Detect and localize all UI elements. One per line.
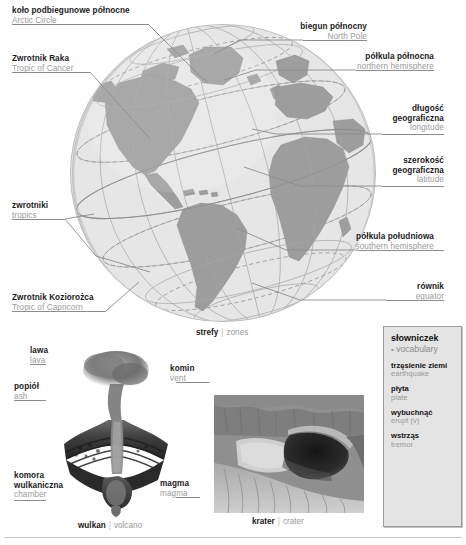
label-northern-hemisphere-en: northern hemisphere [344,62,434,72]
label-tropic-of-capricorn-pl: Zwrotnik Koziorożca [12,293,94,303]
label-magma: magma magma [160,479,189,498]
volcano-caption-separator: | [106,521,114,530]
volcano-caption: wulkan|volcano [78,521,142,530]
globe-sphere [70,24,376,322]
volcano-cutaway-svg [46,348,176,518]
label-southern-hemisphere-en: southern hemisphere [344,242,434,252]
page-footer-rule [4,537,462,538]
volcano-photo [46,348,176,518]
label-equator: równik equator [364,282,444,301]
vocabulary-entry-en: tremor [391,441,461,450]
label-tropics-en: tropics [12,211,48,221]
crater-caption-separator: | [275,517,283,526]
label-latitude: szerokość geograficzna latitude [364,156,444,185]
label-tropic-of-capricorn-en: Tropic of Capricorn [12,303,94,313]
label-ash-pl: popiół [14,382,39,392]
crater-caption-en: crater [283,517,304,526]
label-southern-hemisphere: półkula południowa southern hemisphere [344,232,434,251]
label-tropic-of-capricorn: Zwrotnik Koziorożca Tropic of Capricorn [12,293,94,312]
label-lava-en: lava [30,356,48,366]
label-chamber-pl-line1: komora [14,471,63,481]
label-lava-pl: lawa [30,346,48,356]
vocabulary-entry-en: plate [391,394,461,403]
label-equator-en: equator [364,292,444,302]
label-northern-hemisphere-pl: półkula północna [344,52,434,62]
label-lava: lawa lava [30,346,48,365]
label-chamber-en: chamber [14,490,63,500]
bullet-icon: • [391,345,394,354]
vocabulary-title-pl: słowniczek [391,334,461,344]
globe-caption: strefy|zones [196,328,248,337]
label-tropic-of-cancer-pl: Zwrotnik Raka [12,54,74,64]
label-north-pole-en: North Pole [287,32,367,42]
label-longitude-en: longitude [364,123,444,133]
label-tropics: zwrotniki tropics [12,201,48,220]
globe-illustration [70,24,376,322]
label-vent: komin vent [170,364,195,383]
label-longitude: długość geograficzna longitude [364,104,444,133]
label-north-pole-pl: biegun północny [287,22,367,32]
label-tropics-pl: zwrotniki [12,201,48,211]
label-ash: popiół ash [14,382,39,401]
label-ash-en: ash [14,392,39,402]
label-magma-en: magma [160,489,189,499]
vocabulary-entry-en: erupt (v) [391,417,461,426]
vocabulary-entry: wybuchnąć erupt (v) [391,409,461,426]
vocabulary-title-en: vocabulary [396,344,438,354]
label-longitude-pl-line1: długość [364,104,444,114]
label-latitude-en: latitude [364,175,444,185]
volcano-caption-pl: wulkan [78,521,106,530]
label-northern-hemisphere: półkula północna northern hemisphere [344,52,434,71]
vocabulary-entry: trzęsienie ziemi earthquake [391,362,461,379]
label-arctic-circle-en: Arctic Circle [12,16,130,26]
label-arctic-circle-pl: koło podbiegunowe północne [12,6,130,16]
label-tropic-of-cancer-en: Tropic of Cancer [12,64,74,74]
vocabulary-entry: wstrząs tremor [391,432,461,449]
label-longitude-pl-line2: geograficzna [364,114,444,124]
label-vent-pl: komin [170,364,195,374]
crater-caption-pl: krater [252,517,275,526]
crater-aerial-svg [214,395,364,513]
label-rule-longitude [382,134,444,135]
vocabulary-box: słowniczek • vocabulary trzęsienie ziemi… [383,326,462,527]
label-magma-pl: magma [160,479,189,489]
label-north-pole: biegun północny North Pole [287,22,367,41]
page-root: koło podbiegunowe północne Arctic Circle… [0,0,466,545]
label-equator-pl: równik [364,282,444,292]
vocabulary-entry: płyta plate [391,385,461,402]
label-arctic-circle: koło podbiegunowe północne Arctic Circle [12,6,130,25]
vocabulary-entry-en: earthquake [391,370,461,379]
vocabulary-title-en-row: • vocabulary [391,345,461,355]
crater-photo [214,395,364,513]
volcano-caption-en: volcano [114,521,142,530]
label-latitude-pl-line2: geograficzna [364,166,444,176]
label-vent-en: vent [170,374,195,384]
label-tropic-of-cancer: Zwrotnik Raka Tropic of Cancer [12,54,74,73]
globe-caption-pl: strefy [196,328,218,337]
label-rule-latitude [382,186,444,187]
label-chamber: komora wulkaniczna chamber [14,471,63,500]
label-latitude-pl-line1: szerokość [364,156,444,166]
label-southern-hemisphere-pl: półkula południowa [344,232,434,242]
crater-caption: krater|crater [252,517,304,526]
label-chamber-pl-line2: wulkaniczna [14,481,63,491]
globe-caption-en: zones [226,328,248,337]
globe-map-svg [71,25,376,322]
